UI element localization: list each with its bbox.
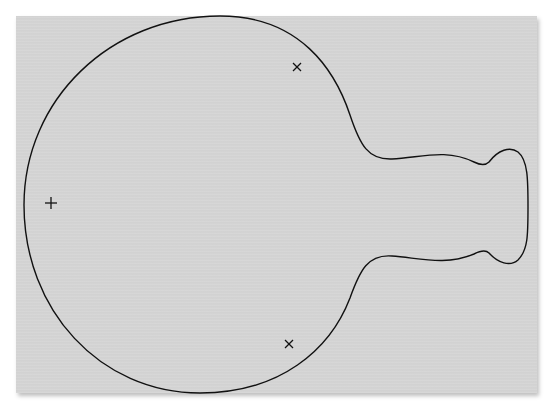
cross-marker-bottom-icon (285, 340, 293, 348)
contour-diagram (0, 0, 554, 417)
closed-contour-path (24, 16, 528, 393)
cross-marker-top-icon (293, 63, 301, 71)
plus-marker-icon (45, 197, 57, 209)
figure-stage (0, 0, 554, 417)
